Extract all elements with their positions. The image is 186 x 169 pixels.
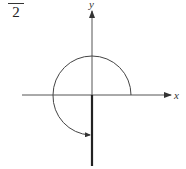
angle-diagram: x y — [0, 0, 186, 169]
y-axis-label: y — [88, 0, 94, 10]
x-axis-label: x — [173, 89, 179, 101]
